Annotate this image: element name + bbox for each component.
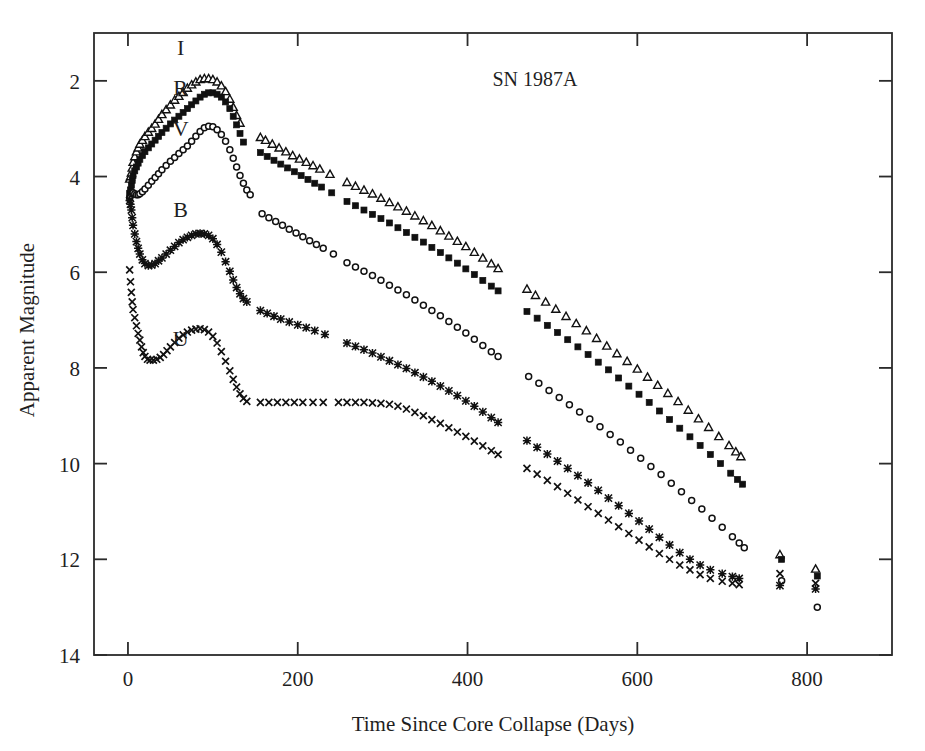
data-point <box>218 131 224 137</box>
data-point <box>814 573 820 579</box>
data-point <box>471 272 477 278</box>
data-point <box>488 349 494 355</box>
data-point <box>488 283 494 289</box>
data-point <box>471 336 477 342</box>
data-point <box>352 264 358 270</box>
data-point <box>237 173 243 179</box>
data-point <box>420 302 426 308</box>
data-point <box>344 260 350 266</box>
data-point <box>463 330 469 336</box>
data-point <box>564 464 572 472</box>
data-point <box>395 287 401 293</box>
data-point <box>697 442 703 448</box>
data-point <box>234 122 240 128</box>
data-point <box>594 486 602 494</box>
y-tick-label: 14 <box>59 644 81 668</box>
data-point <box>229 276 237 284</box>
data-point <box>279 222 285 228</box>
data-point <box>729 534 735 540</box>
data-point <box>546 387 552 393</box>
data-point <box>131 230 139 238</box>
data-point <box>678 489 684 495</box>
data-point <box>728 470 734 476</box>
data-point <box>615 502 623 510</box>
data-point <box>277 315 285 323</box>
data-point <box>368 349 376 357</box>
data-point <box>237 130 243 136</box>
data-point <box>369 211 375 217</box>
data-point <box>454 324 460 330</box>
data-point <box>655 533 663 541</box>
data-point <box>628 447 634 453</box>
data-point <box>814 604 820 610</box>
data-point <box>534 315 540 321</box>
curve-label-i: I <box>177 35 184 60</box>
data-point <box>709 515 715 521</box>
data-point <box>386 220 392 226</box>
data-point <box>585 352 591 358</box>
data-point <box>298 173 304 179</box>
data-point <box>707 452 713 458</box>
data-point <box>420 239 426 245</box>
x-tick-label: 200 <box>282 667 314 691</box>
data-point <box>617 439 623 445</box>
data-point <box>227 106 233 112</box>
data-point <box>584 479 592 487</box>
data-point <box>230 113 236 119</box>
x-tick-label: 0 <box>123 667 134 691</box>
data-point <box>604 494 612 502</box>
data-point <box>221 258 229 266</box>
data-point <box>369 273 375 279</box>
data-point <box>403 230 409 236</box>
data-point <box>636 391 642 397</box>
data-point <box>656 408 662 414</box>
x-tick-label: 800 <box>791 667 823 691</box>
data-point <box>278 161 284 167</box>
data-point <box>445 387 453 395</box>
chart-annotation-sn-name: SN 1987A <box>492 68 578 90</box>
data-point <box>437 313 443 319</box>
data-point <box>134 244 142 252</box>
data-point <box>234 164 240 170</box>
x-tick-label: 400 <box>452 667 484 691</box>
data-point <box>385 357 393 365</box>
curve-label-r: R <box>173 75 188 100</box>
data-point <box>257 150 263 156</box>
y-tick-label: 12 <box>59 548 80 572</box>
data-point <box>463 266 469 272</box>
data-point <box>480 277 486 283</box>
data-point <box>638 455 644 461</box>
data-point <box>319 184 325 190</box>
data-point <box>429 308 435 314</box>
x-tick-label: 600 <box>622 667 654 691</box>
data-point <box>302 324 310 332</box>
data-point <box>494 418 502 426</box>
data-point <box>597 424 603 430</box>
data-point <box>495 353 501 359</box>
data-point <box>446 319 452 325</box>
data-point <box>312 180 318 186</box>
data-point <box>665 541 673 549</box>
data-point <box>436 382 444 390</box>
data-point <box>687 434 693 440</box>
data-point <box>495 288 501 294</box>
data-point <box>320 245 326 251</box>
data-point <box>412 297 418 303</box>
data-point <box>536 380 542 386</box>
data-point <box>361 207 367 213</box>
data-point <box>313 241 319 247</box>
data-point <box>300 234 306 240</box>
data-point <box>479 408 487 416</box>
y-tick-label: 6 <box>70 261 81 285</box>
data-point <box>343 339 351 347</box>
data-point <box>696 561 704 569</box>
data-point <box>658 472 664 478</box>
data-point <box>403 292 409 298</box>
data-point <box>668 480 674 486</box>
data-point <box>240 180 246 186</box>
data-point <box>526 374 532 380</box>
data-point <box>321 330 329 338</box>
data-point <box>230 155 236 161</box>
data-point <box>616 375 622 381</box>
data-point <box>677 425 683 431</box>
